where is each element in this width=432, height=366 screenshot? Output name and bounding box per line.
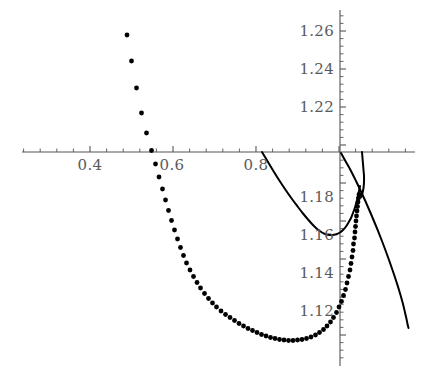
data-point (191, 274, 196, 279)
data-point (246, 326, 251, 331)
data-point (241, 324, 246, 329)
data-point (153, 162, 158, 167)
data-point (350, 255, 355, 260)
data-point (357, 192, 362, 197)
axes-group (22, 10, 415, 366)
data-point (175, 237, 180, 242)
data-point (295, 338, 300, 343)
data-point (354, 219, 359, 224)
data-point (250, 328, 255, 333)
data-point (149, 148, 154, 153)
data-point (346, 274, 351, 279)
data-point (343, 287, 348, 292)
data-point (277, 337, 282, 342)
data-point (157, 175, 162, 180)
data-point (228, 315, 233, 320)
data-point (351, 242, 356, 247)
data-point (339, 299, 344, 304)
data-point (195, 280, 200, 285)
data-point (345, 281, 350, 286)
data-point (188, 268, 193, 273)
curves-group (262, 152, 409, 328)
data-point (353, 224, 358, 229)
plot-canvas (0, 0, 432, 366)
data-point (328, 320, 333, 325)
data-point (160, 187, 165, 192)
data-point (139, 111, 144, 116)
data-point (355, 209, 360, 214)
data-point (264, 334, 269, 339)
data-point (259, 332, 264, 337)
data-point (206, 296, 211, 301)
data-point (352, 236, 357, 241)
data-point (317, 330, 322, 335)
data-point (309, 335, 314, 340)
data-point (255, 330, 260, 335)
curve-solid-descending-branch (341, 153, 409, 328)
data-point (198, 286, 203, 291)
parametric-plot: 0.40.60.8 1.261.241.221.181.161.141.12 (0, 0, 432, 366)
y-tick-label: 1.12 (292, 304, 334, 319)
data-point (341, 293, 346, 298)
y-tick-label: 1.18 (292, 190, 334, 205)
x-tick-label: 0.8 (244, 158, 269, 173)
data-point (321, 327, 326, 332)
data-point (349, 261, 354, 266)
y-tick-label: 1.24 (292, 62, 334, 77)
data-point (134, 86, 139, 91)
data-point (172, 228, 177, 233)
data-point (214, 305, 219, 310)
data-point (181, 253, 186, 258)
data-point (348, 268, 353, 273)
data-point (300, 337, 305, 342)
data-point (353, 230, 358, 235)
y-tick-label: 1.16 (292, 228, 334, 243)
data-point (337, 305, 342, 310)
y-tick-label: 1.22 (292, 100, 334, 115)
data-point (237, 321, 242, 326)
data-point (286, 338, 291, 343)
data-point (178, 245, 183, 250)
data-point (291, 338, 296, 343)
data-point (129, 59, 134, 64)
data-point (144, 131, 149, 136)
data-point (125, 33, 130, 38)
data-point (313, 333, 318, 338)
y-tick-label: 1.14 (292, 266, 334, 281)
data-point (273, 336, 278, 341)
data-point (304, 336, 309, 341)
y-tick-label: 1.26 (292, 24, 334, 39)
data-point (355, 204, 360, 209)
data-point (166, 208, 171, 213)
data-point (169, 218, 174, 223)
data-point (325, 324, 330, 329)
data-point (351, 248, 356, 253)
data-point (334, 310, 339, 315)
data-point (163, 198, 168, 203)
data-point (282, 338, 287, 343)
data-point (219, 309, 224, 314)
data-point (268, 335, 273, 340)
data-point (210, 301, 215, 306)
data-point (232, 318, 237, 323)
x-tick-label: 0.4 (78, 158, 103, 173)
data-point (354, 214, 359, 219)
data-point (223, 312, 228, 317)
data-point (184, 261, 189, 266)
data-point (202, 291, 207, 296)
x-tick-label: 0.6 (160, 158, 185, 173)
